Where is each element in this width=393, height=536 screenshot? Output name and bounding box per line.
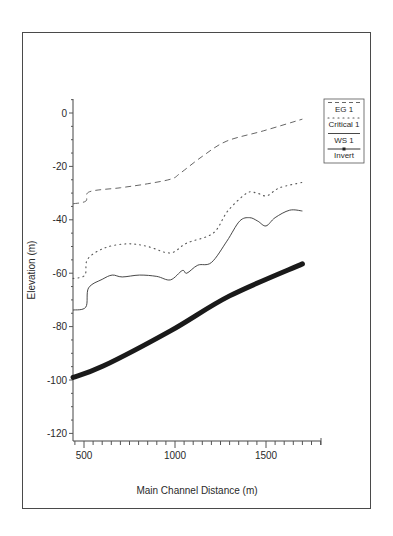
series-ws-1: [73, 210, 302, 310]
y-tick-label: -120: [47, 428, 67, 439]
series-critical-1: [73, 182, 302, 278]
x-axis-label: Main Channel Distance (m): [136, 485, 257, 496]
legend-label: EG 1: [335, 105, 354, 114]
series-eg-1: [73, 119, 302, 204]
y-tick-label: -20: [53, 161, 68, 172]
data-series: [73, 119, 302, 377]
axes: 0-20-40-60-80-100-12050010001500: [47, 99, 321, 461]
y-axis-label: Elevation (m): [26, 241, 37, 300]
legend-label: WS 1: [334, 136, 354, 145]
legend-label: Critical 1: [328, 120, 360, 129]
y-tick-label: -100: [47, 375, 67, 386]
legend: EG 1Critical 1WS 1Invert: [324, 99, 364, 163]
y-tick-label: -40: [53, 214, 68, 225]
series-invert: [73, 264, 302, 377]
legend-label: Invert: [334, 151, 355, 160]
x-tick-label: 1500: [255, 450, 278, 461]
y-tick-label: -60: [53, 268, 68, 279]
x-tick-label: 500: [76, 450, 93, 461]
y-tick-label: 0: [61, 108, 67, 119]
chart-canvas: 0-20-40-60-80-100-12050010001500 EG 1Cri…: [0, 0, 393, 536]
y-tick-label: -80: [53, 321, 68, 332]
x-tick-label: 1000: [164, 450, 187, 461]
